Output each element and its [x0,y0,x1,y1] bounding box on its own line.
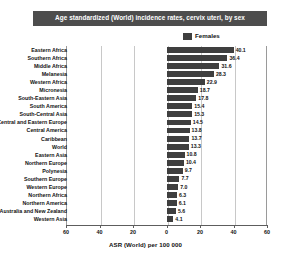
x-axis-tick [133,225,134,228]
x-axis-tick [100,225,101,228]
x-axis-tick [234,225,235,228]
category-label: Central and Eastern Europe [0,118,67,126]
x-axis-title: ASR (World) per 100 000 [0,241,291,248]
legend-item-label: Females [195,33,220,39]
category-label: Central America [27,126,67,134]
bar-value-label: 28.3 [214,71,226,78]
chart-legend: Females [183,33,220,40]
bar-row: Caribbean13.7 [0,135,291,143]
bar-value-label: 10.4 [184,159,196,166]
bar-value-label: 9.7 [183,167,192,174]
category-label: South-Eastern Asia [18,94,67,102]
bar [167,200,177,206]
bar-value-label: 10.8 [185,151,197,158]
category-label: South America [30,102,67,110]
bar [167,192,178,198]
bar [167,47,234,53]
bar [167,95,197,101]
category-label: Western Asia [34,215,67,223]
bar-row: South-Central Asia15.3 [0,110,291,118]
bar-row: Northern Africa6.3 [0,191,291,199]
bar-value-label: 15.3 [192,111,204,118]
bar-row: Western Africa22.9 [0,78,291,86]
bar [167,152,185,158]
bar [167,216,174,222]
bar-row: Southern Africa36.4 [0,54,291,62]
x-axis-tick-label: 60 [63,229,69,235]
x-axis-tick-label: 20 [130,229,136,235]
category-label: South-Central Asia [20,110,67,118]
category-label: Middle Africa [34,62,67,70]
bar [167,128,190,134]
category-label: Southern Africa [27,54,67,62]
bar-row: Northern America6.1 [0,199,291,207]
bar-value-label: 13.3 [189,143,201,150]
x-axis-tick [200,225,201,228]
bar-row: Northern Europe10.4 [0,159,291,167]
category-label: Caribbean [41,135,67,143]
bar-value-label: 6.1 [177,200,186,207]
bar-row: Eastern Asia10.8 [0,151,291,159]
bar-row: South America15.4 [0,102,291,110]
category-label: Southern Europe [24,175,67,183]
bar-value-label: 22.9 [205,79,217,86]
bar [167,168,183,174]
bar-row: Western Asia4.1 [0,215,291,223]
bar [167,176,180,182]
bar-row: Australia and New Zealand5.6 [0,207,291,215]
category-label: Northern Africa [28,191,67,199]
bar-row: Central America13.8 [0,126,291,134]
category-label: Eastern Africa [31,46,67,54]
bar-row: South-Eastern Asia17.8 [0,94,291,102]
category-label: Western Africa [30,78,67,86]
category-label: Melanesia [42,70,67,78]
category-label: Australia and New Zealand [0,207,67,215]
bar-rows: Eastern Africa40.1Southern Africa36.4Mid… [0,46,291,223]
bar-value-label: 5.6 [176,208,185,215]
bar [167,71,214,77]
bar-row: Micronesia18.7 [0,86,291,94]
category-label: Northern Europe [25,159,67,167]
bar-value-label: 7.0 [178,184,187,191]
bar-value-label: 31.6 [219,63,231,70]
bar [167,144,189,150]
bar-value-label: 18.7 [198,87,210,94]
bar [167,120,191,126]
bar-value-label: 6.3 [177,192,186,199]
x-axis-tick-label: 40 [231,229,237,235]
category-label: World [52,143,67,151]
category-label: Polynesia [42,167,67,175]
bar-value-label: 15.4 [192,103,204,110]
x-axis-tick-label: 20 [197,229,203,235]
bar-value-label: 13.7 [189,135,201,142]
bar [167,55,228,61]
bar [167,79,205,85]
bar-value-label: 13.8 [190,127,202,134]
x-axis-tick [66,225,67,228]
bar-value-label: 14.5 [191,119,203,126]
category-label: Northern America [22,199,67,207]
bar [167,63,220,69]
bar-value-label: 36.4 [227,55,239,62]
bar [167,103,193,109]
bar [167,208,176,214]
bar-row: World13.3 [0,143,291,151]
bar [167,136,190,142]
bar-row: Southern Europe7.7 [0,175,291,183]
bar-row: Polynesia9.7 [0,167,291,175]
category-label: Western Europe [26,183,67,191]
chart-title-banner: Age standardized (World) incidence rates… [33,11,267,26]
x-axis-tick-label: 40 [97,229,103,235]
chart-figure: Age standardized (World) incidence rates… [0,0,291,261]
bar-value-label: 7.7 [179,175,188,182]
x-axis-tick-label: 60 [264,229,270,235]
bar-value-label: 40.1 [234,47,246,54]
bar [167,111,193,117]
x-axis-tick [167,225,168,228]
bar [167,87,198,93]
bar-row: Melanesia28.3 [0,70,291,78]
x-axis-tick-label: 0 [165,229,168,235]
bar-row: Eastern Africa40.1 [0,46,291,54]
bar-row: Western Europe7.0 [0,183,291,191]
x-axis-tick [267,225,268,228]
